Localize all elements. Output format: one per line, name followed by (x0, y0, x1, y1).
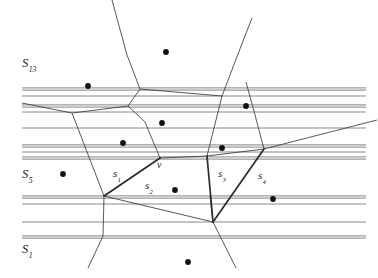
label-subscript: 2 (150, 188, 153, 195)
segment-label-s4: s4 (258, 170, 266, 184)
voronoi-edge (207, 149, 264, 156)
label-subscript: 13 (29, 65, 37, 74)
label-base: S (22, 167, 28, 181)
site-point (85, 83, 91, 89)
voronoi-edge (72, 113, 104, 196)
site-point (163, 49, 169, 55)
label-base: s (258, 169, 262, 181)
label-base: S (22, 56, 28, 70)
voronoi-edges-layer (22, 0, 377, 268)
site-point (172, 187, 178, 193)
line-strips-layer (22, 88, 366, 238)
site-point (243, 103, 249, 109)
voronoi-edge (128, 89, 140, 106)
voronoi-edge (112, 0, 140, 89)
voronoi-edge (222, 18, 252, 96)
voronoi-edge (104, 196, 213, 222)
site-point (60, 171, 66, 177)
site-point (159, 120, 165, 126)
chain-segment-s3 (207, 156, 213, 222)
figure-canvas: S13 S5 S1 s1 s2 s3 s4 v (0, 0, 378, 278)
voronoi-diagram-svg (0, 0, 378, 278)
label-subscript: 3 (223, 176, 226, 183)
chain-segment-s4 (213, 149, 264, 222)
site-point (185, 259, 191, 265)
voronoi-edge (88, 196, 104, 268)
label-base: v (157, 159, 161, 170)
vertex-label-v: v (157, 160, 161, 170)
label-base: s (145, 179, 149, 191)
voronoi-edge (213, 222, 236, 268)
segment-label-s1: s1 (113, 168, 121, 182)
region-label-s13: S13 (22, 57, 36, 72)
label-base: s (113, 167, 117, 179)
site-point (219, 145, 225, 151)
label-subscript: 1 (29, 251, 33, 260)
segment-label-s2: s2 (145, 180, 153, 194)
site-point (270, 196, 276, 202)
highlighted-chain-layer (104, 149, 264, 222)
segment-label-s3: s3 (218, 168, 226, 182)
site-point (120, 140, 126, 146)
label-base: s (218, 167, 222, 179)
region-label-s1: S1 (22, 243, 32, 258)
label-subscript: 4 (263, 178, 266, 185)
voronoi-edge (128, 106, 160, 158)
voronoi-edge (246, 82, 264, 149)
region-label-s5: S5 (22, 168, 32, 183)
label-subscript: 5 (29, 176, 33, 185)
label-base: S (22, 242, 28, 256)
label-subscript: 1 (118, 176, 121, 183)
